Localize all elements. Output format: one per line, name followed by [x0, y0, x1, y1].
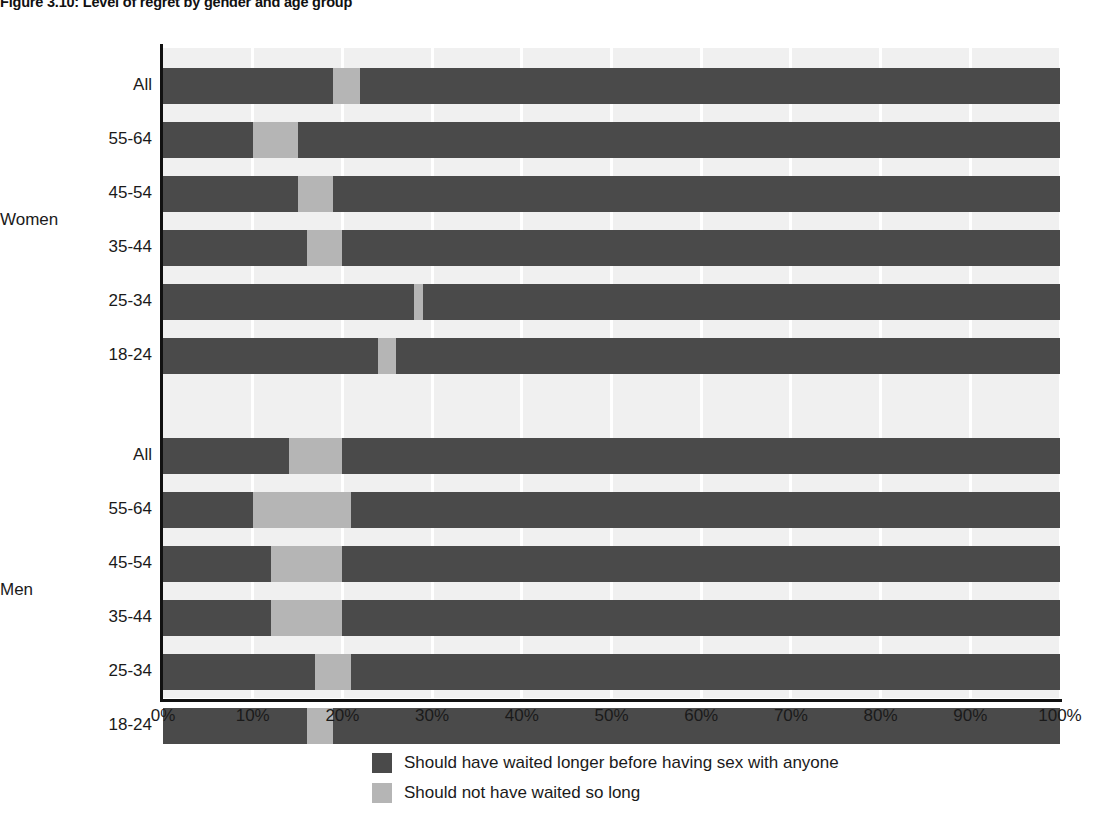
bar-row — [163, 546, 1060, 582]
x-tick-label: 30% — [387, 706, 477, 726]
bar-segment-waited-longer — [163, 492, 253, 528]
y-group-label-women: Women — [0, 210, 78, 230]
bar-row — [163, 338, 1060, 374]
bar-segment-waited-longer — [163, 338, 378, 374]
legend-swatch-waited-longer — [372, 753, 392, 773]
bar-segment-not-waited-so-long — [315, 654, 351, 690]
bar-segment-waited-longer — [163, 438, 289, 474]
bar-segment-remainder — [342, 438, 1060, 474]
y-tick-label: 25-34 — [18, 661, 152, 681]
bar-row — [163, 284, 1060, 320]
bar-row — [163, 122, 1060, 158]
bar-segment-remainder — [351, 654, 1060, 690]
bar-segment-not-waited-so-long — [271, 546, 343, 582]
x-axis-line — [160, 699, 1062, 702]
x-tick-label: 60% — [656, 706, 746, 726]
bar-segment-remainder — [342, 600, 1060, 636]
y-tick-label: 45-54 — [18, 183, 152, 203]
bar-row — [163, 230, 1060, 266]
y-tick-label: 25-34 — [18, 291, 152, 311]
bar-segment-waited-longer — [163, 654, 315, 690]
y-tick-label: All — [18, 75, 152, 95]
x-tick-label: 70% — [746, 706, 836, 726]
x-tick-label: 20% — [297, 706, 387, 726]
bar-row — [163, 438, 1060, 474]
chart-plot-area — [163, 48, 1060, 698]
bar-segment-not-waited-so-long — [378, 338, 396, 374]
bar-segment-waited-longer — [163, 176, 298, 212]
bar-segment-waited-longer — [163, 68, 333, 104]
bar-segment-remainder — [351, 492, 1060, 528]
y-tick-label: 55-64 — [18, 499, 152, 519]
legend-item[interactable]: Should not have waited so long — [372, 778, 839, 808]
y-axis-line — [160, 44, 163, 702]
bar-segment-remainder — [396, 338, 1060, 374]
bar-row — [163, 68, 1060, 104]
y-tick-label: 55-64 — [18, 129, 152, 149]
bar-segment-remainder — [298, 122, 1060, 158]
bar-segment-waited-longer — [163, 230, 307, 266]
figure-title: Figure 3.10: Level of regret by gender a… — [0, 0, 352, 10]
y-tick-label: All — [18, 445, 152, 465]
y-tick-label: 18-24 — [18, 345, 152, 365]
x-tick-label: 50% — [567, 706, 657, 726]
legend-label: Should have waited longer before having … — [404, 753, 839, 773]
bar-segment-remainder — [423, 284, 1060, 320]
legend-swatch-not-waited-so-long — [372, 783, 392, 803]
bar-segment-waited-longer — [163, 122, 253, 158]
bar-rows — [163, 48, 1060, 698]
bar-segment-waited-longer — [163, 600, 271, 636]
bar-segment-not-waited-so-long — [307, 230, 343, 266]
bar-segment-waited-longer — [163, 284, 414, 320]
y-group-label-men: Men — [0, 580, 78, 600]
bar-segment-not-waited-so-long — [333, 68, 360, 104]
bar-segment-remainder — [342, 230, 1060, 266]
x-tick-label: 40% — [477, 706, 567, 726]
bar-row — [163, 654, 1060, 690]
bar-segment-not-waited-so-long — [289, 438, 343, 474]
bar-segment-not-waited-so-long — [253, 122, 298, 158]
x-tick-label: 10% — [208, 706, 298, 726]
bar-row — [163, 600, 1060, 636]
bar-segment-not-waited-so-long — [253, 492, 352, 528]
bar-segment-remainder — [360, 68, 1060, 104]
legend-item[interactable]: Should have waited longer before having … — [372, 748, 839, 778]
bar-row — [163, 492, 1060, 528]
bar-segment-not-waited-so-long — [271, 600, 343, 636]
legend-label: Should not have waited so long — [404, 783, 640, 803]
x-tick-label: 100% — [1015, 706, 1105, 726]
bar-segment-not-waited-so-long — [298, 176, 334, 212]
chart-legend: Should have waited longer before having … — [372, 748, 839, 808]
x-tick-label: 90% — [925, 706, 1015, 726]
bar-segment-remainder — [333, 176, 1060, 212]
y-tick-label: 35-44 — [18, 607, 152, 627]
bar-segment-remainder — [342, 546, 1060, 582]
x-tick-label: 80% — [836, 706, 926, 726]
y-tick-label: 45-54 — [18, 553, 152, 573]
bar-segment-waited-longer — [163, 546, 271, 582]
bar-row — [163, 176, 1060, 212]
x-tick-label: 0% — [118, 706, 208, 726]
bar-segment-not-waited-so-long — [414, 284, 423, 320]
y-tick-label: 35-44 — [18, 237, 152, 257]
